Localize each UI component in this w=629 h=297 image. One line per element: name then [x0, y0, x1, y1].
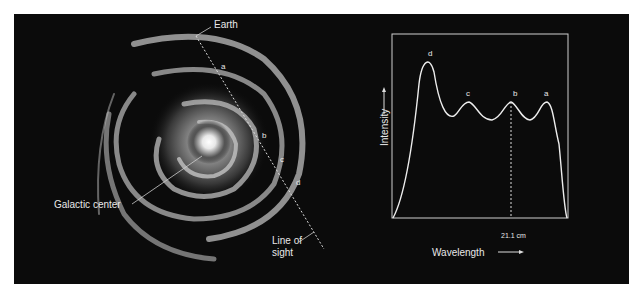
line-of-sight-label-2: sight: [272, 247, 293, 258]
galactic-center-label: Galactic center: [54, 199, 121, 210]
earth-label: Earth: [214, 19, 238, 30]
point-a-label: a: [221, 62, 226, 71]
spectrum-curve: [393, 62, 567, 218]
marker-label: 21.1 cm: [501, 232, 526, 239]
peak-b-label: b: [513, 89, 518, 98]
point-c-label: c: [280, 155, 284, 164]
y-arrow-icon: [382, 87, 386, 92]
spiral-galaxy: [98, 37, 302, 259]
plot-frame: [392, 34, 568, 218]
peak-c-label: c: [466, 89, 470, 98]
figure-svg: Earth a b c d Galactic center Line of si…: [14, 14, 629, 284]
point-d-label: d: [296, 178, 300, 187]
figure-panel: Earth a b c d Galactic center Line of si…: [14, 14, 629, 284]
y-axis-label: Intensity: [379, 109, 390, 146]
x-axis-label: Wavelength: [432, 247, 484, 258]
x-arrow-icon: [519, 250, 524, 254]
line-of-sight-label-1: Line of: [272, 235, 302, 246]
peak-a-label: a: [544, 89, 549, 98]
spectrum-chart: d c b a 21.1 cm Wavelength Intensity: [379, 34, 568, 258]
point-b-label: b: [262, 131, 267, 140]
peak-d-label: d: [428, 49, 432, 58]
